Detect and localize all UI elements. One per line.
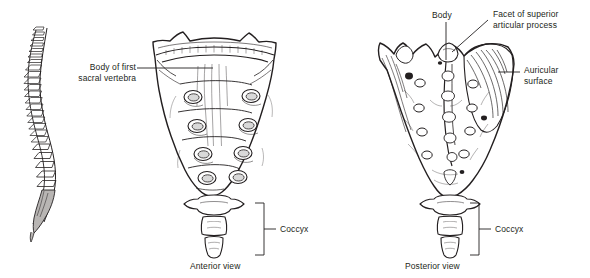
- anterior-sacrum-drawing: [153, 32, 276, 258]
- figure-artwork: [0, 0, 590, 278]
- caption-anterior-view: Anterior view: [190, 261, 240, 272]
- caption-posterior-view: Posterior view: [405, 261, 460, 272]
- label-body: Body: [432, 10, 452, 21]
- label-body-of-first-sacral-vertebra: Body of first sacral vertebra: [36, 62, 136, 83]
- lateral-spine-drawing: [24, 27, 56, 242]
- coccyx-posterior: [420, 195, 480, 258]
- coccyx-anterior: [184, 195, 244, 258]
- label-coccyx-posterior: Coccyx: [495, 224, 523, 235]
- coccyx-bracket-posterior: [470, 203, 491, 255]
- coccyx-bracket-anterior: [255, 203, 276, 255]
- label-facet-of-superior-articular-process: Facet of superior articular process: [493, 9, 558, 30]
- label-coccyx-anterior: Coccyx: [280, 224, 308, 235]
- posterior-sacrum-drawing: [379, 43, 515, 258]
- label-auricular-surface: Auricular surface: [524, 65, 558, 86]
- anatomy-figure: Body of first sacral vertebra Body Facet…: [0, 0, 590, 278]
